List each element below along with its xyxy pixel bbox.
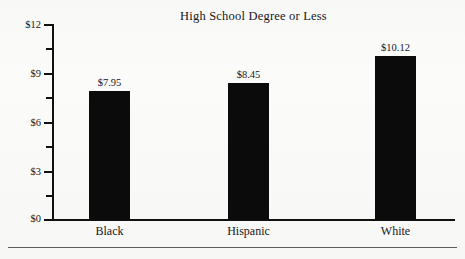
- x-category-label-white: White: [355, 224, 436, 239]
- bar-value-black: $7.95: [79, 77, 140, 88]
- x-category-label-black: Black: [69, 224, 150, 239]
- x-category-label-hispanic: Hispanic: [208, 224, 289, 239]
- footer-divider-rule: [8, 247, 457, 248]
- bar-white[interactable]: [375, 56, 416, 220]
- bar-chart-figure: High School Degree or Less $12 $9 $6 $3 …: [0, 0, 465, 259]
- bar-black[interactable]: [89, 91, 130, 220]
- bar-value-white: $10.12: [365, 42, 426, 53]
- bars-layer: [0, 0, 465, 220]
- bar-hispanic[interactable]: [228, 83, 269, 220]
- bar-value-hispanic: $8.45: [218, 69, 279, 80]
